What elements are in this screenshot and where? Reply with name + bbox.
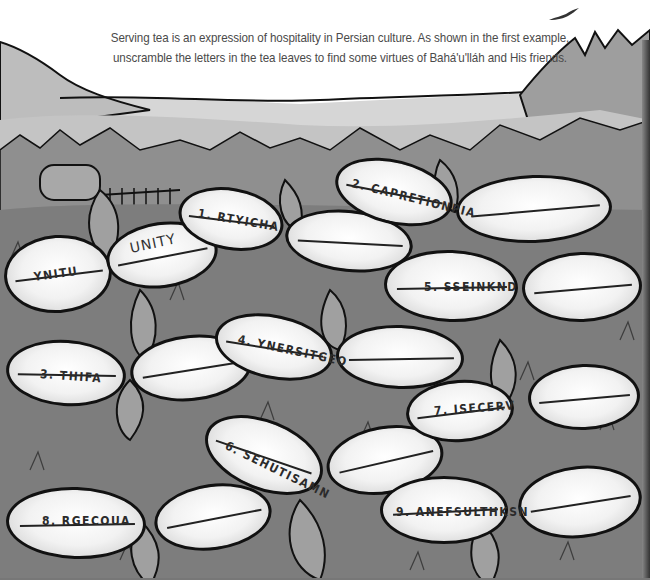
instructions-text: Serving tea is an expression of hospital… (82, 28, 598, 68)
puzzle-8-text[interactable]: 8. RGECOUA (42, 514, 131, 528)
puzzle-9-text[interactable]: 9. ANEFSULTHKSN (396, 505, 529, 519)
instructions-line-2: unscramble the letters in the tea leaves… (82, 48, 598, 68)
worksheet-page: Serving tea is an expression of hospital… (0, 0, 650, 586)
page-bottom-border (0, 578, 650, 586)
puzzle-5-text[interactable]: 5. SSEINKND (424, 280, 518, 294)
page-edge-shadow (642, 40, 650, 580)
bird-icon (548, 8, 580, 22)
instructions-line-1: Serving tea is an expression of hospital… (82, 28, 598, 48)
